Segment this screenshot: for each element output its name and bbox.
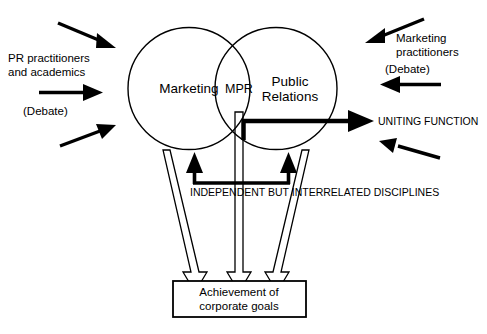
left-annotation-debate: (Debate) (23, 105, 68, 117)
hollow-arrow-center (227, 112, 251, 292)
left-arrow-top (58, 23, 116, 48)
uniting-function-arrow (242, 110, 374, 140)
right-annotation-line2: practitioners (396, 46, 459, 58)
uniting-function-label: UNITING FUNCTION (378, 115, 478, 127)
right-annotation-debate: (Debate) (385, 63, 430, 75)
diagram-canvas: Marketing Public Relations MPR PR practi… (0, 0, 487, 334)
left-annotation-line1: PR practitioners (8, 52, 90, 64)
mpr-label: MPR (225, 82, 253, 96)
outcome-label-line1: Achievement of (199, 286, 279, 298)
marketing-label: Marketing (159, 81, 218, 96)
diagram-graphics: Marketing Public Relations MPR PR practi… (0, 0, 487, 334)
right-arrow-middle (380, 76, 441, 93)
public-relations-label-line1: Public (272, 74, 309, 89)
right-annotation-line1: Marketing (396, 32, 447, 44)
left-arrow-middle (39, 84, 103, 101)
right-arrow-bottom (379, 138, 440, 158)
public-relations-label-line2: Relations (262, 89, 319, 104)
left-annotation-line2: and academics (8, 66, 86, 78)
outcome-label-line2: corporate goals (199, 300, 279, 312)
left-arrow-bottom (60, 124, 116, 146)
interrelated-label: INDEPENDENT BUT INTERRELATED DISCIPLINES (190, 186, 439, 198)
